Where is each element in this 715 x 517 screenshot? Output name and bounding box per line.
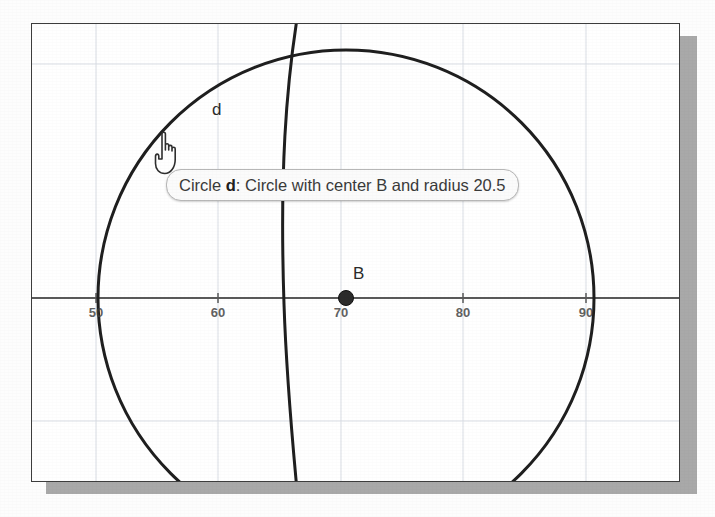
x-tick-label-60: 60 xyxy=(211,305,225,320)
x-tick-label-80: 80 xyxy=(456,305,470,320)
x-tick-label-50: 50 xyxy=(89,305,103,320)
tooltip-object-name: d xyxy=(226,176,236,194)
tooltip-description: Circle with center B and radius 20.5 xyxy=(245,176,505,194)
circle-d[interactable] xyxy=(98,50,594,481)
x-tick-label-90: 90 xyxy=(579,305,593,320)
secondary-arc[interactable] xyxy=(283,24,303,481)
point-B[interactable] xyxy=(339,291,354,306)
tooltip-object-type: Circle xyxy=(179,176,221,194)
object-tooltip: Circle d: Circle with center B and radiu… xyxy=(166,169,519,201)
x-tick-label-70: 70 xyxy=(334,305,348,320)
geometry-applet-frame[interactable]: 50 60 70 80 90 d B xyxy=(31,23,680,482)
point-B-label[interactable]: B xyxy=(353,264,364,284)
circle-d-label[interactable]: d xyxy=(212,100,221,120)
graphics-view-canvas[interactable] xyxy=(32,24,679,481)
grid-lines xyxy=(32,24,679,481)
